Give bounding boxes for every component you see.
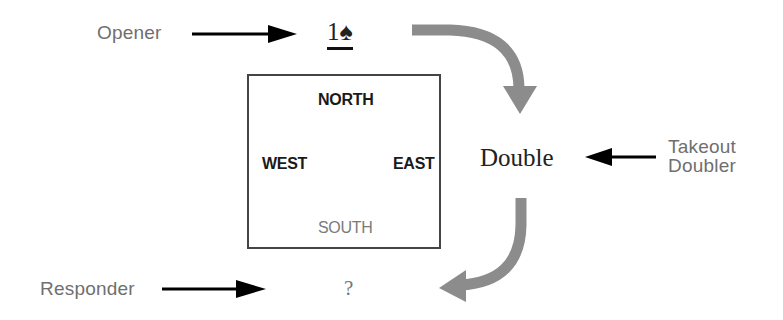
opener-pointer-arrow — [192, 25, 297, 43]
seat-west: WEST — [262, 155, 307, 173]
response-bid: ? — [344, 276, 353, 301]
takeout-doubler-pointer-arrow — [585, 148, 656, 166]
responder-pointer-arrow — [162, 280, 266, 298]
opener-label: Opener — [97, 22, 162, 44]
seat-north: NORTH — [318, 91, 373, 109]
takeout-doubler-label-line1: Takeout — [668, 137, 736, 156]
double-bid: Double — [480, 144, 554, 172]
opening-bid: 1♠ — [327, 19, 353, 50]
responder-label: Responder — [40, 278, 135, 300]
takeout-doubler-label: Takeout Doubler — [668, 137, 736, 175]
takeout-doubler-label-line2: Doubler — [668, 156, 736, 175]
seat-east: EAST — [393, 155, 434, 173]
seat-south: SOUTH — [318, 219, 373, 237]
flow-arrow-double-to-response — [439, 198, 521, 302]
